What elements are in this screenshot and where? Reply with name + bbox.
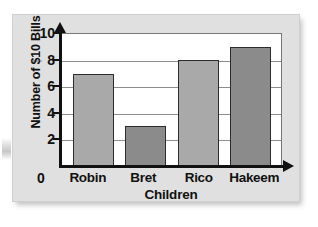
bar-robin[interactable] <box>73 74 114 166</box>
bar-bret[interactable] <box>125 126 166 166</box>
bar-slot-rico <box>172 34 225 166</box>
bar-slot-robin <box>67 34 120 166</box>
y-tick-label-0: 0 <box>37 170 45 186</box>
x-axis-line <box>59 165 285 168</box>
x-axis-title: Children <box>60 187 282 202</box>
screenshot-root: 10 8 6 4 2 0 Number of $10 Bills Robin B… <box>0 0 318 227</box>
bar-slot-hakeem <box>225 34 278 166</box>
y-axis-title: Number of $10 Bills <box>29 2 43 142</box>
x-tick-label-robin: Robin <box>60 170 116 185</box>
bar-slot-bret <box>120 34 173 166</box>
chart-card: 10 8 6 4 2 0 Number of $10 Bills Robin B… <box>12 14 300 202</box>
x-tick-label-hakeem: Hakeem <box>227 170 283 185</box>
x-axis-arrow-icon <box>283 160 294 172</box>
x-tick-label-rico: Rico <box>171 170 227 185</box>
bar-series <box>61 34 281 166</box>
bar-rico[interactable] <box>178 60 219 166</box>
plot-area <box>60 33 282 166</box>
page-edge-artifact <box>2 138 11 160</box>
y-axis-line <box>59 31 62 168</box>
x-tick-label-bret: Bret <box>116 170 172 185</box>
x-tick-label-group: Robin Bret Rico Hakeem <box>60 170 282 185</box>
bar-hakeem[interactable] <box>230 47 271 166</box>
